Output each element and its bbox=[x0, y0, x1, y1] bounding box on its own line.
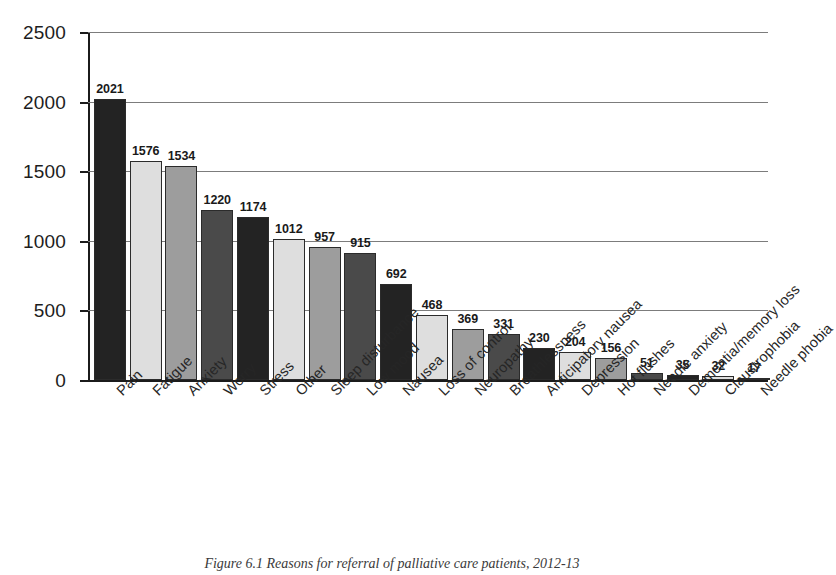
y-tick-label-0: 0 bbox=[0, 371, 66, 390]
bar bbox=[130, 161, 162, 380]
bar-value-label: 915 bbox=[334, 237, 386, 250]
bar-value-label: 1534 bbox=[155, 150, 207, 163]
bar bbox=[273, 239, 305, 380]
tick-mark-500 bbox=[80, 310, 88, 312]
y-tick-label-2000: 2000 bbox=[0, 92, 66, 111]
y-tick-label-500: 500 bbox=[0, 301, 66, 320]
figure-caption: Figure 6.1 Reasons for referral of palli… bbox=[0, 556, 784, 572]
gridline-2000 bbox=[88, 102, 768, 103]
bar bbox=[237, 217, 269, 380]
bar-value-label: 2021 bbox=[84, 83, 136, 96]
plot-area bbox=[88, 32, 768, 380]
bar bbox=[94, 99, 126, 380]
tick-mark-1000 bbox=[80, 241, 88, 243]
gridline-2500 bbox=[88, 32, 768, 33]
bar-value-label: 1174 bbox=[227, 201, 279, 214]
y-tick-label-1000: 1000 bbox=[0, 231, 66, 250]
tick-mark-1500 bbox=[80, 171, 88, 173]
tick-mark-2000 bbox=[80, 102, 88, 104]
y-tick-label-2500: 2500 bbox=[0, 23, 66, 42]
tick-mark-0 bbox=[80, 380, 88, 382]
bar bbox=[309, 247, 341, 380]
tick-mark-2500 bbox=[80, 32, 88, 34]
bar-value-label: 692 bbox=[370, 268, 422, 281]
y-tick-label-1500: 1500 bbox=[0, 162, 66, 181]
